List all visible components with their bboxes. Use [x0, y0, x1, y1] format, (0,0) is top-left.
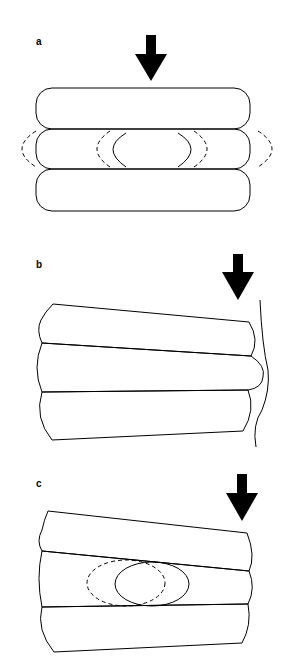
figure-canvas: a b c: [0, 0, 295, 668]
bulge-inner-right: [194, 131, 207, 167]
panel-a: a: [22, 35, 272, 211]
down-arrow-icon: [222, 254, 254, 300]
down-arrow-icon: [135, 35, 167, 81]
layer-middle: [36, 129, 250, 169]
layer-top: [36, 88, 250, 129]
panel-label-a: a: [36, 36, 42, 47]
boundary-line: [255, 300, 269, 447]
panel-c: c: [36, 474, 258, 652]
panel-b: b: [36, 254, 268, 447]
layer-bottom: [40, 390, 252, 440]
layer-bottom: [36, 169, 250, 211]
bulge-inner-left: [97, 131, 110, 167]
panel-label-b: b: [36, 259, 42, 270]
layer-middle: [37, 343, 264, 392]
bulge-outer-right: [258, 131, 272, 167]
down-arrow-icon: [226, 474, 258, 521]
lens-right: [178, 133, 191, 167]
layer-bottom: [41, 604, 250, 652]
panel-label-c: c: [36, 478, 42, 489]
lens-left: [113, 133, 126, 167]
inclusion-solid: [115, 562, 189, 606]
bulge-outer-left: [22, 131, 36, 167]
layer-top: [39, 304, 255, 356]
layer-middle: [39, 551, 252, 607]
